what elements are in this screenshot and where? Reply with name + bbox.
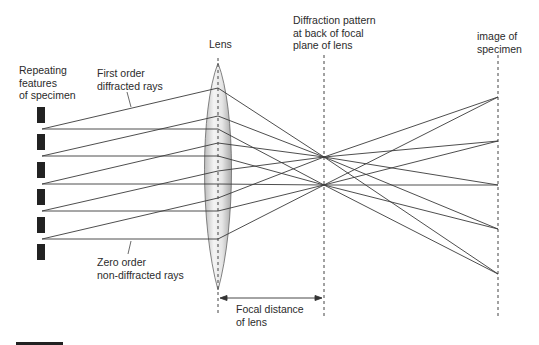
diffraction-pattern-label: Diffraction pattern at back of focal pla… — [293, 14, 376, 52]
focal-distance-label: Focal distance of lens — [236, 303, 304, 328]
diffraction-diagram — [0, 0, 539, 345]
first-order-leader — [127, 92, 131, 107]
rays — [42, 88, 498, 274]
specimen-label: Repeating features of specimen — [19, 64, 76, 102]
lens-shape — [205, 63, 232, 290]
zero-order-leader — [128, 241, 131, 254]
zero-order-label: Zero order non-diffracted rays — [97, 256, 184, 281]
focal-distance-arrow — [220, 296, 322, 301]
first-order-label: First order diffracted rays — [97, 67, 163, 92]
lens-label: Lens — [209, 38, 232, 51]
image-label: image of specimen — [477, 30, 522, 55]
